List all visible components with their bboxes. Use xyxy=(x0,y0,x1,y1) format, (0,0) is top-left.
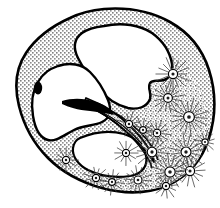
histology-illustration xyxy=(0,0,220,208)
cell-nucleus-dot xyxy=(95,177,97,179)
cell-nucleus-dot xyxy=(156,132,159,135)
cell-nucleus-dot xyxy=(187,115,191,119)
nucleus-spot xyxy=(34,82,42,95)
cell-nucleus-dot xyxy=(111,181,113,183)
cell-nucleus-dot xyxy=(184,150,187,153)
cell-nucleus-dot xyxy=(150,150,153,153)
cell-nucleus-dot xyxy=(167,97,170,100)
cell-nucleus-dot xyxy=(125,152,127,154)
cell-nucleus-dot xyxy=(142,129,144,131)
cell-nucleus-dot xyxy=(204,141,206,143)
figure-root: Histological cross-section illustration … xyxy=(0,0,220,208)
cell-nucleus-dot xyxy=(188,169,191,172)
cell-nucleus-dot xyxy=(128,123,130,125)
cell-nucleus-dot xyxy=(65,159,67,161)
cell-nucleus-dot xyxy=(165,185,167,187)
cell-nucleus-dot xyxy=(168,170,172,174)
cell-nucleus-dot xyxy=(171,72,174,75)
cell-nucleus-dot xyxy=(137,179,140,182)
